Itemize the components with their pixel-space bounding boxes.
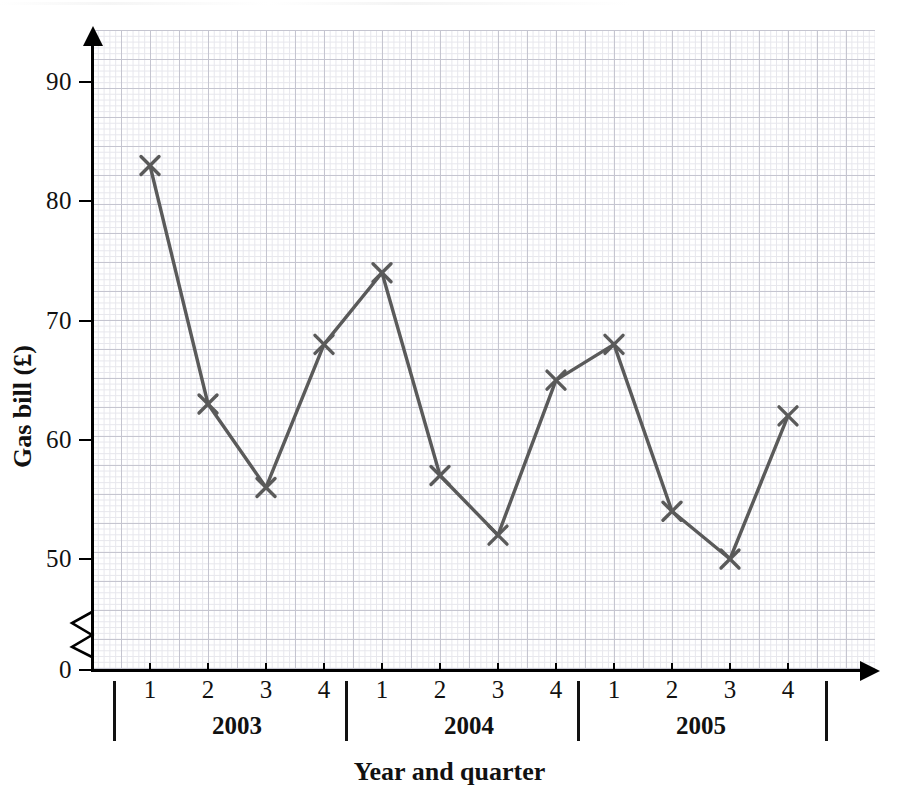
x-tick-mark (729, 663, 731, 671)
x-tick-label-2003-q4: 4 (304, 677, 344, 702)
data-point-marker (489, 526, 507, 544)
data-point-marker (257, 478, 275, 496)
x-group-separator-0 (113, 681, 116, 741)
data-point-marker (547, 371, 565, 389)
data-series-plot (0, 0, 899, 795)
x-tick-mark (671, 663, 673, 671)
chart-canvas: 90807060500 123420031234200412342005 Gas… (0, 0, 899, 795)
y-axis-title: Gas bill (£) (8, 345, 38, 468)
x-tick-label-2004-q1: 1 (362, 677, 402, 702)
data-point-marker (721, 550, 739, 568)
data-point-marker (663, 502, 681, 520)
x-tick-mark (613, 663, 615, 671)
x-tick-label-2003-q2: 2 (188, 677, 228, 702)
x-tick-mark (555, 663, 557, 671)
data-point-marker (373, 264, 391, 282)
x-tick-mark (497, 663, 499, 671)
data-point-marker (779, 407, 797, 425)
x-tick-mark (265, 663, 267, 671)
x-group-label-2005: 2005 (621, 713, 781, 738)
x-group-separator-3 (825, 681, 828, 741)
x-tick-mark (439, 663, 441, 671)
x-tick-label-2004-q2: 2 (420, 677, 460, 702)
x-tick-mark (381, 663, 383, 671)
x-tick-mark (787, 663, 789, 671)
x-tick-label-2003-q3: 3 (246, 677, 286, 702)
x-tick-label-2005-q3: 3 (710, 677, 750, 702)
x-group-label-2003: 2003 (157, 713, 317, 738)
x-tick-mark (207, 663, 209, 671)
x-tick-label-2003-q1: 1 (130, 677, 170, 702)
x-tick-mark (323, 663, 325, 671)
x-tick-label-2004-q3: 3 (478, 677, 518, 702)
data-line (150, 166, 788, 560)
x-tick-mark (149, 663, 151, 671)
x-tick-label-2004-q4: 4 (536, 677, 576, 702)
x-axis-title: Year and quarter (0, 757, 899, 787)
x-group-separator-2 (577, 681, 580, 741)
x-tick-label-2005-q4: 4 (768, 677, 808, 702)
x-tick-label-2005-q1: 1 (594, 677, 634, 702)
data-point-marker (315, 335, 333, 353)
data-point-marker (431, 467, 449, 485)
x-group-separator-1 (345, 681, 348, 741)
x-group-label-2004: 2004 (389, 713, 549, 738)
data-point-marker (605, 335, 623, 353)
x-tick-label-2005-q2: 2 (652, 677, 692, 702)
